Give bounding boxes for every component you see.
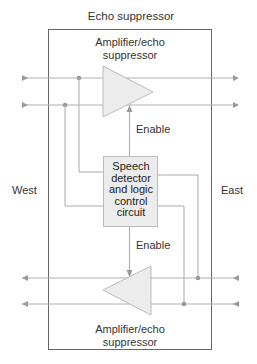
label-line: and logic <box>104 184 158 196</box>
label-line: Speech <box>104 161 158 173</box>
label-line: Amplifier/echo <box>60 36 200 49</box>
enable-bottom-label: Enable <box>136 239 170 252</box>
arrow-up-icon <box>127 105 133 112</box>
junction-dot <box>182 302 187 307</box>
arrow-in-icon <box>233 275 239 281</box>
arrow-in-icon <box>22 75 28 81</box>
arrow-out-icon <box>22 275 28 281</box>
west-label: West <box>12 184 37 197</box>
wire <box>157 206 184 304</box>
control-block-label: Speech detector and logic control circui… <box>104 161 158 219</box>
top-amplifier-label: Amplifier/echo suppressor <box>60 36 200 62</box>
wire <box>157 175 198 278</box>
diagram-title: Echo suppressor <box>0 10 257 23</box>
bottom-amplifier-triangle <box>103 266 151 315</box>
wire <box>65 105 103 206</box>
label-line: Amplifier/echo <box>60 323 200 336</box>
arrow-in-icon <box>22 102 28 108</box>
wire <box>79 78 103 172</box>
label-line: suppressor <box>60 49 200 62</box>
label-line: suppressor <box>60 336 200 349</box>
east-label: East <box>221 184 243 197</box>
arrow-in-icon <box>233 301 239 307</box>
arrow-out-icon <box>233 102 239 108</box>
junction-dot <box>196 276 201 281</box>
bottom-amplifier-label: Amplifier/echo suppressor <box>60 323 200 349</box>
arrow-out-icon <box>233 75 239 81</box>
enable-top-label: Enable <box>136 123 170 136</box>
label-line: circuit <box>104 207 158 219</box>
arrow-out-icon <box>22 301 28 307</box>
